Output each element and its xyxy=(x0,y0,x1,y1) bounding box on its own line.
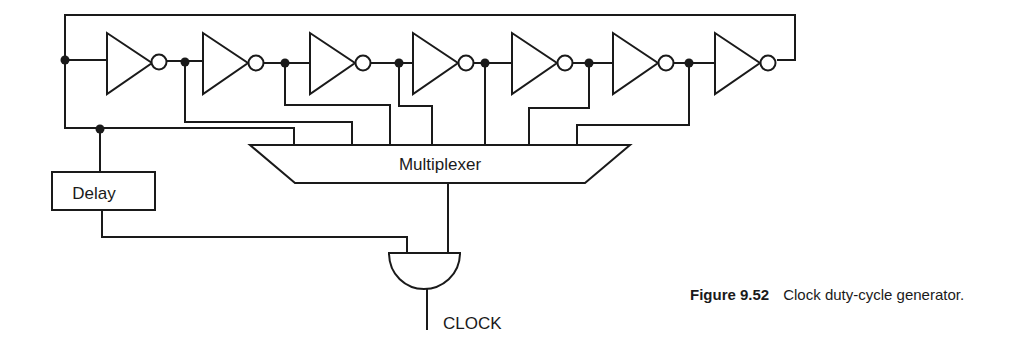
figure-caption: Figure 9.52Clock duty-cycle generator. xyxy=(690,285,990,305)
inverter-5 xyxy=(512,33,573,94)
multiplexer: Multiplexer xyxy=(250,145,630,183)
inverter-4 xyxy=(413,33,474,94)
inverter-3 xyxy=(310,33,371,94)
and-gate: CLOCK xyxy=(389,253,502,333)
inverter-2 xyxy=(203,33,264,94)
delay-block: Delay xyxy=(52,129,155,210)
figure-number: Figure 9.52 xyxy=(690,286,769,303)
multiplexer-label: Multiplexer xyxy=(399,155,482,174)
figure-caption-text: Clock duty-cycle generator. xyxy=(783,286,964,303)
delay-to-and-wire xyxy=(102,210,407,253)
inverter-6 xyxy=(613,33,674,94)
clock-output-label: CLOCK xyxy=(443,314,502,333)
inverter-7 xyxy=(715,33,776,94)
inverter-1 xyxy=(107,33,167,94)
delay-label: Delay xyxy=(72,184,116,203)
tap-wires xyxy=(65,60,689,145)
